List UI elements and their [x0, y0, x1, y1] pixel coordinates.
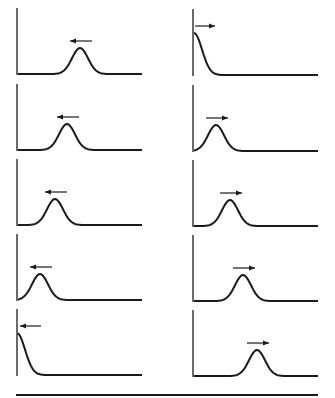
gaussian-pulse-curve	[194, 33, 318, 75]
pulse-reflection-diagram	[0, 0, 335, 398]
gaussian-pulse-curve	[18, 48, 142, 74]
gaussian-pulse-curve	[18, 124, 142, 150]
arrow-left-icon	[57, 115, 63, 120]
gaussian-pulse-curve	[18, 274, 142, 300]
gaussian-pulse-curve	[18, 199, 142, 225]
arrow-left-icon	[45, 190, 51, 195]
arrow-right-icon	[209, 24, 215, 29]
arrow-left-icon	[70, 39, 76, 44]
arrow-right-icon	[236, 191, 242, 196]
gaussian-pulse-curve	[194, 350, 318, 376]
arrow-left-icon	[30, 265, 36, 270]
gaussian-pulse-curve	[194, 200, 318, 226]
arrow-right-icon	[249, 266, 255, 271]
arrow-right-icon	[222, 116, 228, 121]
gaussian-pulse-curve	[18, 333, 142, 375]
arrow-left-icon	[20, 324, 26, 329]
gaussian-pulse-curve	[194, 275, 318, 301]
gaussian-pulse-curve	[194, 125, 318, 151]
arrow-right-icon	[263, 341, 269, 346]
